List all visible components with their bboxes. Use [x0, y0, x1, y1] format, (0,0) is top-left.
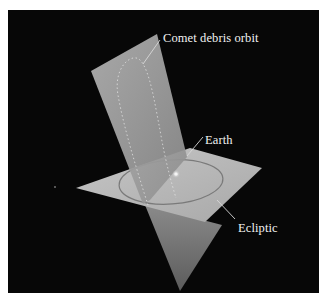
planes-illustration	[8, 10, 319, 293]
label-comet-debris-orbit: Comet debris orbit	[163, 31, 259, 46]
orbital-plane-lower	[145, 205, 222, 291]
diagram-figure: Comet debris orbit Earth Ecliptic	[8, 10, 319, 293]
label-ecliptic: Ecliptic	[238, 221, 278, 236]
ecliptic-leader-line	[217, 200, 235, 219]
label-earth: Earth	[205, 133, 233, 148]
